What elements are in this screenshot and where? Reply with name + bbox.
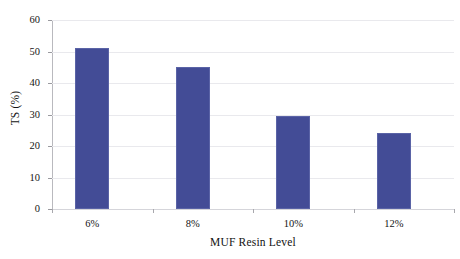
y-tick-label-40: 40 [14,78,40,89]
y-tick-mark-50 [48,52,52,53]
bar-10pct [276,116,310,209]
plot-area: 01020304050606%8%10%12% [52,20,454,209]
y-tick-label-20: 20 [14,141,40,152]
bar-12pct [377,133,411,209]
gridline-60 [52,20,454,21]
x-tick-label-6pct: 6% [57,218,127,230]
x-tick-mark-end [454,209,455,213]
x-tick-mark-0 [52,209,53,213]
gridline-50 [52,52,454,53]
x-axis-title: MUF Resin Level [52,236,454,248]
gridline-40 [52,83,454,84]
bar-8pct [176,67,210,209]
x-tick-label-8pct: 8% [158,218,228,230]
y-tick-label-50: 50 [14,47,40,58]
y-tick-mark-60 [48,20,52,21]
x-tick-mark-2 [253,209,254,213]
x-tick-label-12pct: 12% [359,218,429,230]
y-tick-label-10: 10 [14,173,40,184]
y-tick-label-60: 60 [14,15,40,26]
y-tick-mark-40 [48,83,52,84]
y-tick-mark-30 [48,115,52,116]
bar-chart: TS (%) 01020304050606%8%10%12% MUF Resin… [0,0,460,259]
y-tick-mark-10 [48,178,52,179]
x-tick-label-10pct: 10% [258,218,328,230]
y-tick-label-0: 0 [14,204,40,215]
y-tick-label-30: 30 [14,110,40,121]
x-tick-mark-3 [354,209,355,213]
bar-6pct [75,48,109,209]
gridline-30 [52,115,454,116]
x-tick-mark-1 [153,209,154,213]
y-tick-mark-20 [48,146,52,147]
